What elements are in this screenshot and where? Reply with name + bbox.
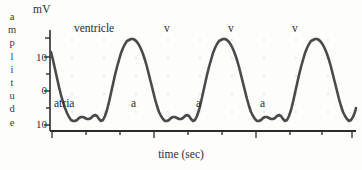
plot-canvas [0, 0, 362, 170]
y-axis-ticks [44, 38, 50, 125]
annotation-a-1: a [131, 97, 136, 109]
ecg-amplitude-figure: a m p l i t u d e mV 10 0 10 [0, 0, 362, 170]
annotation-a-2: a [196, 97, 201, 109]
x-axis-ticks [52, 131, 352, 138]
annotation-ventricle: ventricle [74, 22, 114, 34]
annotation-v-1: v [164, 22, 170, 34]
x-axis-title: time (sec) [0, 148, 362, 160]
annotation-atria: atria [54, 97, 74, 109]
annotation-v-2: v [228, 22, 234, 34]
waveform-trace [51, 39, 356, 121]
annotation-v-3: v [292, 22, 298, 34]
annotation-a-3: a [260, 97, 265, 109]
